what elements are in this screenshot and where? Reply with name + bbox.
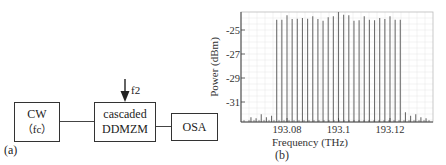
y-axis-label: Power (dBm) — [208, 37, 221, 97]
panel-b-spectrum-chart: 193.08193.1193.12 -25-27-29-31 Power (dB… — [0, 0, 446, 165]
x-tick-label: 193.1 — [327, 124, 351, 135]
y-tick-label: -27 — [226, 49, 240, 60]
spectral-lines — [251, 12, 426, 122]
y-tick-label: -31 — [226, 97, 240, 108]
x-tick-label: 193.08 — [273, 124, 302, 135]
x-tick-label: 193.12 — [376, 124, 405, 135]
y-tick-label: -25 — [226, 25, 240, 36]
panel-b-label: (b) — [275, 148, 289, 162]
chart-grid — [241, 12, 433, 122]
y-tick-label: -29 — [226, 73, 240, 84]
